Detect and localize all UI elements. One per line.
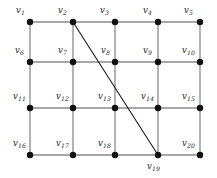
vertex-node bbox=[70, 152, 76, 158]
vertex-node bbox=[27, 59, 33, 65]
vertex-label-subscript: 12 bbox=[61, 95, 69, 102]
vertex-node bbox=[197, 105, 203, 111]
vertex-label-subscript: 8 bbox=[106, 49, 110, 56]
vertex-node bbox=[27, 105, 33, 111]
vertex-label-subscript: 4 bbox=[148, 9, 152, 16]
vertex-label-v14: v14 bbox=[141, 92, 154, 101]
vertex-node bbox=[70, 105, 76, 111]
vertex-label-v1: v1 bbox=[16, 6, 25, 15]
vertex-label-subscript: 16 bbox=[18, 142, 26, 149]
vertex-label-v9: v9 bbox=[143, 46, 152, 55]
vertex-node bbox=[70, 59, 76, 65]
vertex-node bbox=[197, 59, 203, 65]
vertex-label-v2: v2 bbox=[58, 6, 67, 15]
vertex-label-v20: v20 bbox=[182, 139, 195, 148]
vertex-node bbox=[112, 105, 118, 111]
vertex-label-v4: v4 bbox=[143, 6, 152, 15]
vertex-label-subscript: 9 bbox=[148, 49, 152, 56]
vertex-label-subscript: 7 bbox=[63, 49, 67, 56]
vertex-node bbox=[27, 19, 33, 25]
vertex-label-v19: v19 bbox=[147, 162, 160, 171]
vertex-label-subscript: 13 bbox=[103, 95, 111, 102]
vertex-node bbox=[155, 105, 161, 111]
vertex-label-subscript: 14 bbox=[146, 95, 154, 102]
vertex-label-subscript: 19 bbox=[152, 165, 160, 172]
graph-diagram: v1v2v3v4v5v6v7v8v9v10v11v12v13v14v15v16v… bbox=[0, 0, 217, 178]
vertex-label-subscript: 10 bbox=[187, 49, 195, 56]
vertex-label-v12: v12 bbox=[56, 92, 69, 101]
vertex-label-subscript: 1 bbox=[21, 9, 25, 16]
vertex-node bbox=[27, 152, 33, 158]
vertex-label-subscript: 17 bbox=[61, 142, 69, 149]
vertex-label-subscript: 3 bbox=[105, 9, 109, 16]
vertex-label-subscript: 18 bbox=[103, 142, 111, 149]
vertex-label-v13: v13 bbox=[98, 92, 111, 101]
vertex-node bbox=[197, 152, 203, 158]
vertex-node bbox=[155, 59, 161, 65]
vertex-label-v7: v7 bbox=[58, 46, 67, 55]
vertex-label-v8: v8 bbox=[101, 46, 110, 55]
vertex-label-v11: v11 bbox=[13, 92, 26, 101]
vertex-label-subscript: 6 bbox=[20, 49, 24, 56]
vertex-node bbox=[70, 19, 76, 25]
vertex-node bbox=[112, 152, 118, 158]
vertex-label-v5: v5 bbox=[184, 6, 193, 15]
vertex-label-subscript: 20 bbox=[187, 142, 195, 149]
vertex-label-subscript: 2 bbox=[63, 9, 67, 16]
vertex-label-v18: v18 bbox=[98, 139, 111, 148]
vertex-node bbox=[197, 19, 203, 25]
vertex-label-v10: v10 bbox=[182, 46, 195, 55]
vertex-label-v15: v15 bbox=[182, 92, 195, 101]
vertex-node bbox=[155, 19, 161, 25]
vertex-node bbox=[112, 59, 118, 65]
vertex-label-v6: v6 bbox=[15, 46, 24, 55]
vertex-node bbox=[155, 152, 161, 158]
vertex-label-v17: v17 bbox=[56, 139, 69, 148]
vertex-label-subscript: 11 bbox=[18, 95, 26, 102]
vertex-label-subscript: 15 bbox=[187, 95, 195, 102]
vertex-node bbox=[112, 19, 118, 25]
graph-canvas bbox=[0, 0, 217, 178]
vertex-label-v16: v16 bbox=[13, 139, 26, 148]
vertex-label-subscript: 5 bbox=[189, 9, 193, 16]
vertex-label-v3: v3 bbox=[100, 6, 109, 15]
